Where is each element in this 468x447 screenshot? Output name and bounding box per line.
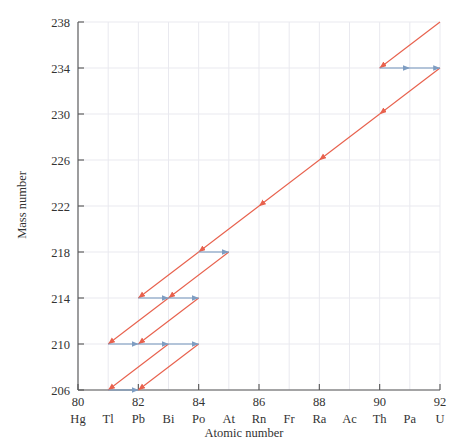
element-symbol-labels: HgTlPbBiPoAtRnFrRaAcThPaU	[70, 412, 444, 426]
y-tick-label: 206	[51, 384, 70, 398]
chart-svg: 80828486889092 HgTlPbBiPoAtRnFrRaAcThPaU…	[0, 0, 468, 447]
x-tick-label: 80	[72, 395, 85, 409]
x-tick-label: 84	[192, 395, 205, 409]
x-tick-label: 92	[434, 395, 447, 409]
x-tick-label: 86	[253, 395, 266, 409]
element-symbol-pa: Pa	[404, 412, 417, 426]
y-tick-labels: 206210214218222226230234238	[51, 16, 71, 398]
x-axis-title: Atomic number	[205, 426, 285, 440]
y-tick-label: 222	[51, 200, 70, 214]
decay-chain-chart: 80828486889092 HgTlPbBiPoAtRnFrRaAcThPaU…	[0, 0, 468, 447]
element-symbol-at: At	[223, 412, 236, 426]
element-symbol-rn: Rn	[252, 412, 267, 426]
y-tick-label: 214	[51, 292, 71, 306]
element-symbol-ac: Ac	[342, 412, 357, 426]
x-tick-label: 82	[132, 395, 145, 409]
y-tick-label: 210	[51, 338, 70, 352]
y-tick-label: 234	[51, 62, 71, 76]
element-symbol-th: Th	[373, 412, 388, 426]
x-tick-label: 88	[313, 395, 326, 409]
element-symbol-bi: Bi	[163, 412, 175, 426]
element-symbol-fr: Fr	[284, 412, 296, 426]
element-symbol-po: Po	[192, 412, 205, 426]
element-symbol-pb: Pb	[132, 412, 145, 426]
element-symbol-tl: Tl	[103, 412, 115, 426]
y-tick-label: 218	[51, 246, 70, 260]
y-tick-label: 226	[51, 154, 70, 168]
y-axis-title: Mass number	[15, 170, 29, 239]
element-symbol-ra: Ra	[312, 412, 326, 426]
x-tick-labels: 80828486889092	[72, 395, 447, 409]
y-tick-label: 238	[51, 16, 70, 30]
x-tick-label: 90	[373, 395, 386, 409]
element-symbol-u: U	[435, 412, 444, 426]
element-symbol-hg: Hg	[70, 412, 86, 426]
y-tick-label: 230	[51, 108, 70, 122]
